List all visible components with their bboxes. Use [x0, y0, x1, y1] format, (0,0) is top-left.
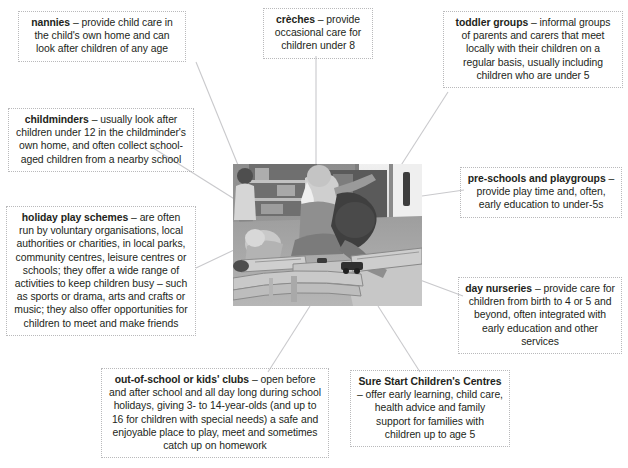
connector-line-holiday-play-schemes	[196, 250, 234, 268]
callout-creches: crèches – provide occasional care for ch…	[263, 8, 373, 59]
callout-holiday-play-schemes: holiday play schemes – are often run by …	[6, 206, 196, 336]
connector-line-nannies	[196, 62, 240, 170]
callout-term-childminders: childminders	[25, 114, 89, 125]
callout-text-holiday-play-schemes: are often run by voluntary organisations…	[14, 212, 187, 329]
callout-childminders: childminders – usually look after childr…	[8, 108, 194, 172]
callout-dash-out-of-school-or-kids-clubs: –	[249, 374, 260, 385]
callout-pre-schools-and-playgroups: pre-schools and playgroups – provide pla…	[460, 167, 622, 218]
connector-line-sure-start	[378, 306, 420, 372]
callout-term-toddler-groups: toddler groups	[456, 17, 529, 28]
callout-dash-sure-start-childrens-centres: –	[357, 389, 366, 400]
callout-term-day-nurseries: day nurseries	[465, 283, 532, 294]
callout-day-nurseries: day nurseries – provide care for childre…	[458, 277, 622, 354]
callout-text-pre-schools-and-playgroups: provide play time and, often, early educ…	[476, 186, 605, 210]
callout-term-out-of-school-or-kids-clubs: out-of-school or kids' clubs	[115, 374, 249, 385]
callout-term-pre-schools-and-playgroups: pre-schools and playgroups	[468, 173, 606, 184]
callout-dash-holiday-play-schemes: –	[128, 212, 139, 223]
callout-nannies: nannies – provide child care in the chil…	[18, 11, 186, 62]
callout-dash-nannies: –	[70, 17, 81, 28]
callout-text-sure-start-childrens-centres: offer early learning, child care, health…	[366, 389, 503, 440]
connector-line-day-nurseries	[420, 280, 463, 296]
callout-dash-pre-schools-and-playgroups: –	[606, 173, 615, 184]
callout-sure-start-childrens-centres: Sure Start Children's Centres – offer ea…	[350, 370, 510, 447]
callout-text-out-of-school-or-kids-clubs: open before and after school and all day…	[109, 374, 321, 451]
callout-out-of-school-or-kids-clubs: out-of-school or kids' clubs – open befo…	[101, 368, 329, 458]
callout-term-sure-start-childrens-centres: Sure Start Children's Centres	[358, 376, 501, 387]
children-playing-photo	[233, 164, 422, 306]
connector-line-out-of-school-clubs	[268, 306, 310, 372]
callout-term-creches: crèches	[276, 14, 315, 25]
diagram-canvas: nannies – provide child care in the chil…	[0, 0, 628, 468]
callout-dash-creches: –	[315, 14, 326, 25]
connector-line-toddler-groups	[398, 92, 448, 170]
callout-dash-toddler-groups: –	[528, 17, 539, 28]
callout-toddler-groups: toddler groups – informal groups of pare…	[443, 11, 623, 88]
callout-dash-day-nurseries: –	[532, 283, 543, 294]
callout-term-nannies: nannies	[31, 17, 70, 28]
callout-dash-childminders: –	[89, 114, 100, 125]
callout-term-holiday-play-schemes: holiday play schemes	[22, 212, 128, 223]
connector-line-pre-schools	[422, 190, 464, 196]
